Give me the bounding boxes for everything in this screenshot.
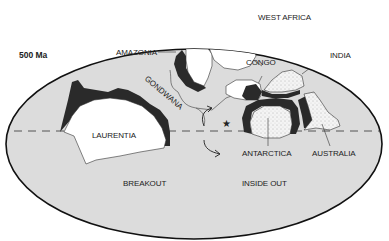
age-label: 500 Ma — [19, 51, 47, 60]
west-africa-leader — [228, 20, 254, 38]
star-icon: ★ — [222, 119, 231, 129]
globe-map — [0, 0, 389, 241]
label-breakout: BREAKOUT — [123, 180, 166, 188]
label-laurentia: LAURENTIA — [92, 132, 136, 140]
label-west-africa: WEST AFRICA — [258, 14, 311, 22]
label-amazonia: AMAZONIA — [116, 49, 157, 57]
label-australia: AUSTRALIA — [312, 150, 356, 158]
label-congo: CONGO — [246, 59, 276, 67]
label-antarctica: ANTARCTICA — [242, 150, 292, 158]
label-inside-out: INSIDE OUT — [242, 180, 287, 188]
label-india: INDIA — [330, 52, 351, 60]
antarctica-continent — [250, 106, 292, 138]
